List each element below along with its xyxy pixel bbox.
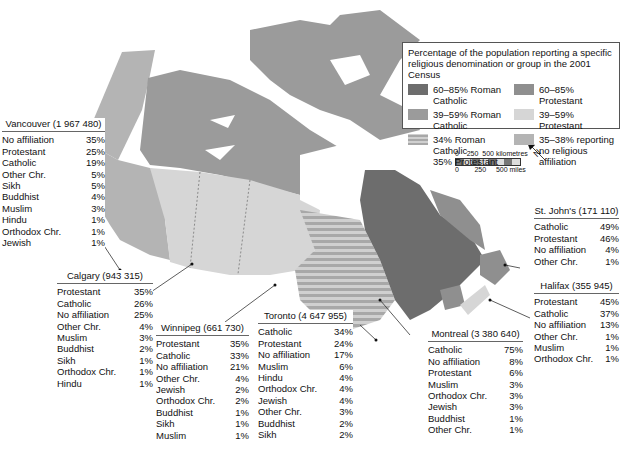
religion-label: Protestant xyxy=(156,338,199,349)
table-row: Catholic19% xyxy=(2,157,105,168)
religion-label: Sikh xyxy=(2,180,20,191)
table-row: Catholic49% xyxy=(534,221,619,232)
religion-label: Jewish xyxy=(156,384,185,395)
table-row: Other Chr.1% xyxy=(534,331,619,342)
percentage-value: 75% xyxy=(504,344,523,355)
percentage-value: 4% xyxy=(91,191,105,202)
religion-label: Buddhist xyxy=(57,343,94,354)
table-row: Buddhist2% xyxy=(258,418,353,429)
religion-label: No affiliation xyxy=(534,244,586,255)
city-box-halifax: Halifax (355 945) Protestant45%Catholic3… xyxy=(534,280,619,365)
religion-label: Catholic xyxy=(534,308,568,319)
religion-label: Other Chr. xyxy=(2,169,46,180)
table-row: No affiliation21% xyxy=(156,361,249,372)
legend-item-rc-60-85: 60–85% Roman Catholic xyxy=(408,84,508,106)
religion-label: Other Chr. xyxy=(534,331,578,342)
table-row: Protestant46% xyxy=(534,233,619,244)
religion-label: No affiliation xyxy=(534,319,586,330)
religion-label: Orthodox Chr. xyxy=(57,366,116,377)
religion-label: No affiliation xyxy=(57,309,109,320)
percentage-value: 1% xyxy=(91,237,105,248)
table-row: Protestant6% xyxy=(428,367,523,378)
percentage-value: 1% xyxy=(91,226,105,237)
table-row: Jewish1% xyxy=(2,237,105,248)
percentage-value: 2% xyxy=(339,429,353,440)
scale-mi-250: 250 xyxy=(474,166,486,173)
percentage-value: 1% xyxy=(509,424,523,435)
religion-label: No affiliation xyxy=(156,361,208,372)
religion-label: Hindu xyxy=(2,214,27,225)
religion-label: Muslim xyxy=(156,430,186,441)
table-row: No affiliation4% xyxy=(534,244,619,255)
table-row: No affiliation35% xyxy=(2,134,105,145)
table-row: No affiliation17% xyxy=(258,349,353,360)
religion-label: Muslim xyxy=(2,203,32,214)
percentage-value: 1% xyxy=(139,355,153,366)
swatch-icon xyxy=(514,109,534,120)
percentage-value: 21% xyxy=(230,361,249,372)
percentage-value: 3% xyxy=(91,203,105,214)
religion-label: No affiliation xyxy=(258,349,310,360)
percentage-value: 1% xyxy=(91,214,105,225)
percentage-value: 17% xyxy=(334,349,353,360)
religion-label: Buddhist xyxy=(2,191,39,202)
percentage-value: 19% xyxy=(86,157,105,168)
percentage-value: 34% xyxy=(334,326,353,337)
scale-mi-0: 0 xyxy=(455,166,459,173)
table-row: Buddhist4% xyxy=(2,191,105,202)
religion-label: Catholic xyxy=(428,344,462,355)
region-newfoundland xyxy=(480,250,510,285)
religion-label: Protestant xyxy=(428,367,471,378)
city-box-montreal: Montreal (3 380 640) Catholic75%No affil… xyxy=(428,328,523,436)
legend-title: Percentage of the population reporting a… xyxy=(408,47,614,80)
percentage-value: 35% xyxy=(134,286,153,297)
table-row: Hindu1% xyxy=(2,214,105,225)
percentage-value: 1% xyxy=(605,342,619,353)
religion-label: Hindu xyxy=(258,372,283,383)
religion-label: Buddhist xyxy=(258,418,295,429)
table-row: Orthodox Chr.1% xyxy=(2,226,105,237)
percentage-value: 6% xyxy=(509,367,523,378)
percentage-value: 49% xyxy=(600,221,619,232)
percentage-value: 1% xyxy=(605,353,619,364)
percentage-value: 1% xyxy=(509,413,523,424)
percentage-value: 2% xyxy=(235,395,249,406)
percentage-value: 35% xyxy=(230,338,249,349)
religion-label: Protestant xyxy=(534,296,577,307)
religion-label: Other Chr. xyxy=(428,424,472,435)
religion-label: Hindu xyxy=(57,378,82,389)
table-row: Other Chr.4% xyxy=(156,373,249,384)
table-row: Other Chr.5% xyxy=(2,169,105,180)
city-box-st-johns: St. John's (171 110) Catholic49%Protesta… xyxy=(534,205,619,267)
percentage-value: 6% xyxy=(339,361,353,372)
religion-label: Buddhist xyxy=(428,413,465,424)
percentage-value: 5% xyxy=(91,169,105,180)
table-row: No affiliation8% xyxy=(428,356,523,367)
percentage-value: 1% xyxy=(235,418,249,429)
table-row: Orthodox Chr.3% xyxy=(428,390,523,401)
table-row: Jewish2% xyxy=(156,384,249,395)
religion-label: Other Chr. xyxy=(57,321,101,332)
religion-label: No affiliation xyxy=(428,356,480,367)
percentage-value: 3% xyxy=(509,401,523,412)
percentage-value: 13% xyxy=(600,319,619,330)
table-row: Buddhist1% xyxy=(156,407,249,418)
region-nova-scotia xyxy=(460,285,490,315)
legend-item-prot-39-59: 39–59% Protestant xyxy=(514,109,614,131)
table-row: Jewish4% xyxy=(258,395,353,406)
religion-label: Muslim xyxy=(428,379,458,390)
religion-label: Protestant xyxy=(534,233,577,244)
religion-label: Buddhist xyxy=(156,407,193,418)
religion-label: Protestant xyxy=(2,146,45,157)
table-row: Hindu4% xyxy=(258,372,353,383)
city-box-toronto: Toronto (4 647 955) Catholic34%Protestan… xyxy=(258,310,353,440)
religion-label: Sikh xyxy=(258,429,276,440)
table-row: Catholic26% xyxy=(57,298,153,309)
percentage-value: 5% xyxy=(91,180,105,191)
table-row: Sikh1% xyxy=(57,355,153,366)
city-box-winnipeg: Winnipeg (661 730) Protestant35%Catholic… xyxy=(156,322,249,441)
table-row: Jewish3% xyxy=(428,401,523,412)
percentage-value: 1% xyxy=(139,366,153,377)
percentage-value: 4% xyxy=(339,395,353,406)
percentage-value: 4% xyxy=(339,372,353,383)
